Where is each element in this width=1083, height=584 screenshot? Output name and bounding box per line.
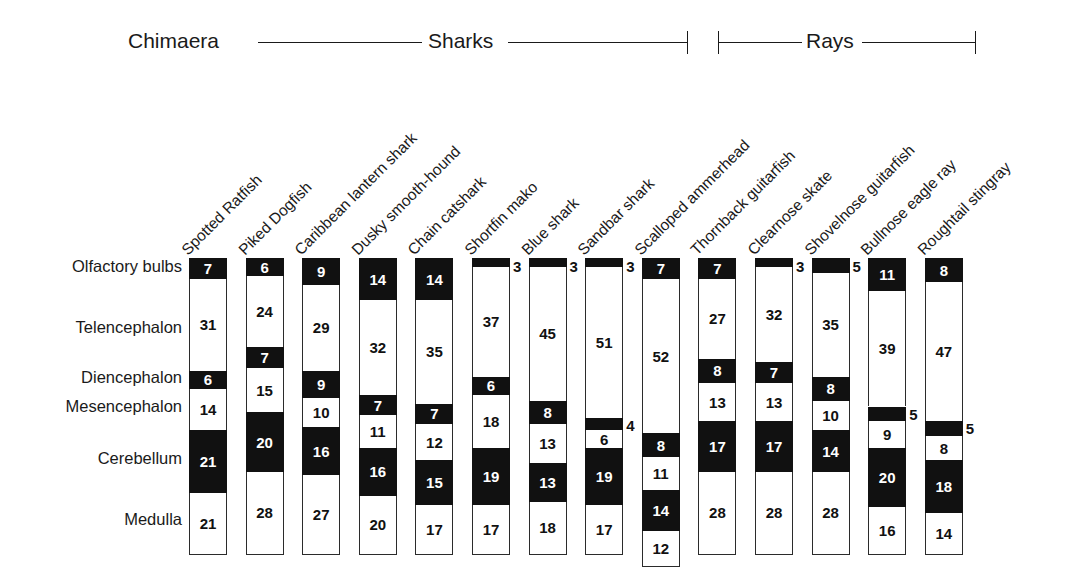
segment-value: 13 bbox=[709, 395, 726, 410]
bar-segment: 15 bbox=[415, 460, 453, 505]
segment-value: 52 bbox=[652, 349, 669, 364]
bar-segment: 19 bbox=[472, 448, 510, 504]
bar-segment: 35 bbox=[415, 300, 453, 404]
segment-value: 17 bbox=[483, 522, 500, 537]
bar-segment: 5 bbox=[925, 421, 963, 436]
segment-value: 18 bbox=[483, 414, 500, 429]
segment-value: 29 bbox=[313, 320, 330, 335]
segment-value: 14 bbox=[426, 272, 443, 287]
bar-segment: 16 bbox=[359, 448, 397, 496]
bar-segment: 11 bbox=[868, 258, 906, 291]
bar-segment: 7 bbox=[189, 258, 227, 279]
bar-segment: 9 bbox=[302, 258, 340, 285]
segment-value: 9 bbox=[317, 264, 325, 279]
bar-segment: 27 bbox=[302, 475, 340, 555]
bar-segment: 8 bbox=[925, 258, 963, 282]
bar-column: 847581814 bbox=[925, 258, 963, 555]
segment-value: 32 bbox=[369, 340, 386, 355]
bar-segment: 31 bbox=[189, 279, 227, 371]
bar-segment: 19 bbox=[585, 448, 623, 504]
bar-segment: 14 bbox=[189, 389, 227, 431]
segment-value: 7 bbox=[204, 261, 212, 276]
bar-column: 7316142121 bbox=[189, 258, 227, 555]
segment-value: 45 bbox=[539, 326, 556, 341]
segment-value: 16 bbox=[879, 523, 896, 538]
segment-value: 28 bbox=[766, 505, 783, 520]
bar-segment: 14 bbox=[642, 490, 680, 532]
bar-segment: 18 bbox=[529, 502, 567, 555]
bar-segment: 7 bbox=[246, 347, 284, 368]
bar-segment: 8 bbox=[812, 377, 850, 401]
segment-value: 16 bbox=[369, 464, 386, 479]
segment-value: 6 bbox=[600, 432, 608, 447]
segment-value: 6 bbox=[260, 260, 268, 275]
segment-value: 35 bbox=[426, 344, 443, 359]
bar-column: 14357121517 bbox=[415, 258, 453, 555]
bar-segment: 28 bbox=[698, 472, 736, 555]
bar-segment: 21 bbox=[189, 430, 227, 492]
segment-value: 7 bbox=[657, 261, 665, 276]
bar-segment: 29 bbox=[302, 285, 340, 371]
segment-value: 15 bbox=[256, 383, 273, 398]
segment-value: 11 bbox=[653, 466, 669, 481]
segment-value: 17 bbox=[596, 522, 613, 537]
bar-segment: 20 bbox=[246, 412, 284, 471]
bar-segment: 12 bbox=[642, 531, 680, 567]
bar-segment: 28 bbox=[755, 472, 793, 555]
segment-value: 27 bbox=[709, 311, 726, 326]
segment-value: 13 bbox=[539, 436, 556, 451]
segment-value: 3 bbox=[513, 259, 521, 274]
bar-segment: 3 bbox=[755, 258, 793, 267]
segment-value: 37 bbox=[483, 314, 500, 329]
bar-segment: 28 bbox=[812, 472, 850, 555]
bar-segment: 32 bbox=[359, 300, 397, 395]
bar-segment: 6 bbox=[472, 377, 510, 395]
bar-segment: 35 bbox=[812, 273, 850, 377]
segment-value: 14 bbox=[200, 402, 217, 417]
segment-value: 8 bbox=[543, 405, 551, 420]
bar-segment: 8 bbox=[698, 359, 736, 383]
bar-segment: 32 bbox=[755, 267, 793, 362]
segment-value: 7 bbox=[260, 350, 268, 365]
segment-value: 13 bbox=[539, 475, 556, 490]
bar-column: 5358101428 bbox=[812, 258, 850, 555]
bar-segment: 51 bbox=[585, 267, 623, 418]
segment-value: 14 bbox=[822, 444, 839, 459]
bar-column: 3327131728 bbox=[755, 258, 793, 555]
segment-value: 20 bbox=[256, 435, 273, 450]
bar-segment: 20 bbox=[359, 496, 397, 555]
segment-value: 28 bbox=[256, 505, 273, 520]
bar-column: 1139592016 bbox=[868, 258, 906, 555]
bar-segment: 17 bbox=[698, 421, 736, 471]
segment-value: 3 bbox=[626, 259, 634, 274]
segment-value: 21 bbox=[200, 454, 217, 469]
bar-column: 14327111620 bbox=[359, 258, 397, 555]
stacked-bar-plot-area: 7316142121624715202892991016271432711162… bbox=[0, 0, 1083, 584]
bar-segment: 9 bbox=[302, 371, 340, 398]
segment-value: 18 bbox=[539, 520, 556, 535]
bar-segment: 5 bbox=[812, 258, 850, 273]
segment-value: 15 bbox=[426, 475, 443, 490]
segment-value: 27 bbox=[313, 507, 330, 522]
segment-value: 8 bbox=[713, 363, 721, 378]
bar-segment: 16 bbox=[302, 427, 340, 475]
segment-value: 17 bbox=[766, 439, 783, 454]
bar-segment: 21 bbox=[189, 493, 227, 555]
bar-column: 9299101627 bbox=[302, 258, 340, 555]
bar-segment: 4 bbox=[585, 418, 623, 430]
bar-segment: 7 bbox=[359, 395, 397, 416]
segment-value: 3 bbox=[796, 259, 804, 274]
bar-segment: 17 bbox=[415, 505, 453, 555]
bar-segment: 8 bbox=[925, 436, 963, 460]
segment-value: 14 bbox=[935, 526, 952, 541]
bar-segment: 20 bbox=[868, 448, 906, 507]
segment-value: 28 bbox=[822, 505, 839, 520]
bar-segment: 13 bbox=[698, 383, 736, 422]
segment-value: 5 bbox=[966, 421, 974, 436]
segment-value: 5 bbox=[909, 407, 917, 422]
segment-value: 18 bbox=[935, 479, 952, 494]
bar-segment: 8 bbox=[642, 433, 680, 457]
segment-value: 19 bbox=[483, 469, 500, 484]
segment-value: 21 bbox=[200, 516, 217, 531]
segment-value: 17 bbox=[426, 522, 443, 537]
